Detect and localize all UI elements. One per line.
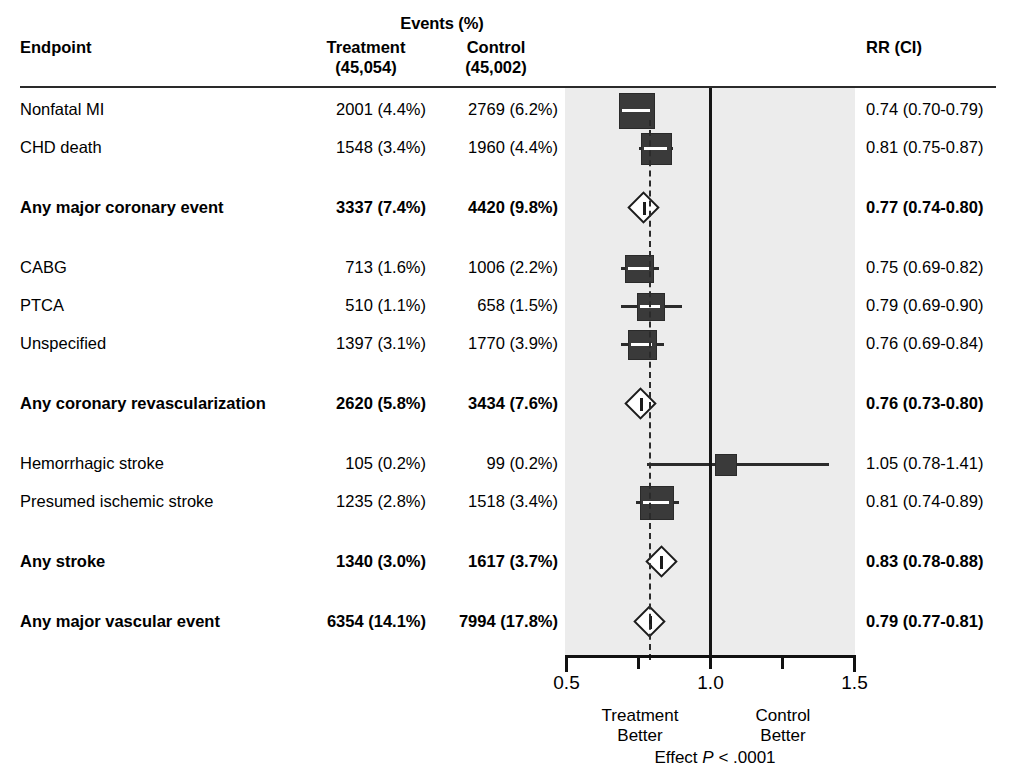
column-header-treatment-n: (45,054) bbox=[306, 58, 426, 77]
axis-caption-left: Treatment Better bbox=[575, 706, 705, 746]
row-control-events: 3434 (7.6%) bbox=[430, 394, 558, 413]
effect-p-symbol: P bbox=[702, 748, 713, 767]
row-treatment-events: 2001 (4.4%) bbox=[296, 100, 426, 119]
row-control-events: 4420 (9.8%) bbox=[430, 198, 558, 217]
column-header-treatment: Treatment bbox=[306, 38, 426, 57]
axis-caption-right: Control Better bbox=[722, 706, 844, 746]
row-control-events: 1770 (3.9%) bbox=[430, 334, 558, 353]
row-rr-ci: 0.79 (0.77-0.81) bbox=[866, 612, 1016, 631]
row-label: CABG bbox=[20, 258, 67, 277]
effect-estimate-box-slit bbox=[643, 501, 668, 504]
row-rr-ci: 0.81 (0.75-0.87) bbox=[866, 138, 1016, 157]
row-rr-ci: 0.74 (0.70-0.79) bbox=[866, 100, 1016, 119]
effect-estimate-box-slit bbox=[628, 267, 649, 270]
row-label: Presumed ischemic stroke bbox=[20, 492, 213, 511]
row-control-events: 1518 (3.4%) bbox=[430, 492, 558, 511]
row-rr-ci: 0.75 (0.69-0.82) bbox=[866, 258, 1016, 277]
pooled-estimate-diamond-center bbox=[640, 398, 643, 411]
axis-caption-right-line2: Better bbox=[722, 726, 844, 746]
row-treatment-events: 510 (1.1%) bbox=[296, 296, 426, 315]
column-header-control-n: (45,002) bbox=[436, 58, 556, 77]
column-header-rr-ci: RR (CI) bbox=[866, 38, 1016, 57]
row-control-events: 1006 (2.2%) bbox=[430, 258, 558, 277]
row-rr-ci: 1.05 (0.78-1.41) bbox=[866, 454, 1016, 473]
row-control-events: 1960 (4.4%) bbox=[430, 138, 558, 157]
column-header-endpoint: Endpoint bbox=[20, 38, 91, 57]
axis-tick-mark bbox=[709, 658, 712, 669]
row-treatment-events: 1340 (3.0%) bbox=[296, 552, 426, 571]
row-treatment-events: 713 (1.6%) bbox=[296, 258, 426, 277]
events-header-title: Events (%) bbox=[318, 14, 566, 33]
row-rr-ci: 0.79 (0.69-0.90) bbox=[866, 296, 1016, 315]
effect-p-suffix: < .0001 bbox=[714, 748, 776, 767]
row-treatment-events: 6354 (14.1%) bbox=[296, 612, 426, 631]
confidence-interval-line bbox=[647, 463, 828, 466]
row-control-events: 2769 (6.2%) bbox=[430, 100, 558, 119]
pooled-estimate-diamond-center bbox=[660, 556, 663, 569]
row-treatment-events: 105 (0.2%) bbox=[296, 454, 426, 473]
row-label: Nonfatal MI bbox=[20, 100, 104, 119]
column-header-control: Control bbox=[436, 38, 556, 57]
row-label: Any stroke bbox=[20, 552, 105, 571]
row-label: Any coronary revascularization bbox=[20, 394, 266, 413]
axis-tick-label: 1.0 bbox=[676, 672, 746, 694]
row-rr-ci: 0.83 (0.78-0.88) bbox=[866, 552, 1016, 571]
effect-estimate-box bbox=[715, 454, 736, 475]
row-label: Hemorrhagic stroke bbox=[20, 454, 164, 473]
null-effect-line bbox=[709, 88, 712, 658]
axis-tick-label: 1.5 bbox=[820, 672, 890, 694]
axis-caption-left-line2: Better bbox=[575, 726, 705, 746]
row-rr-ci: 0.77 (0.74-0.80) bbox=[866, 198, 1016, 217]
row-label: PTCA bbox=[20, 296, 64, 315]
axis-tick-mark bbox=[637, 658, 640, 669]
effect-estimate-box-slit bbox=[622, 109, 650, 112]
axis-tick-mark bbox=[853, 655, 856, 672]
row-label: Unspecified bbox=[20, 334, 106, 353]
row-rr-ci: 0.76 (0.73-0.80) bbox=[866, 394, 1016, 413]
axis-caption-right-line1: Control bbox=[722, 706, 844, 726]
row-treatment-events: 2620 (5.8%) bbox=[296, 394, 426, 413]
row-control-events: 1617 (3.7%) bbox=[430, 552, 558, 571]
row-treatment-events: 1235 (2.8%) bbox=[296, 492, 426, 511]
row-control-events: 99 (0.2%) bbox=[430, 454, 558, 473]
row-treatment-events: 1548 (3.4%) bbox=[296, 138, 426, 157]
axis-tick-label: 0.5 bbox=[532, 672, 602, 694]
effect-p-prefix: Effect bbox=[654, 748, 702, 767]
pooled-estimate-diamond-center bbox=[643, 202, 646, 215]
axis-caption-left-line1: Treatment bbox=[575, 706, 705, 726]
axis-tick-mark bbox=[781, 658, 784, 669]
forest-plot-figure: Events (%) Endpoint Treatment (45,054) C… bbox=[0, 0, 1017, 775]
row-control-events: 7994 (17.8%) bbox=[430, 612, 558, 631]
effect-estimate-box-slit bbox=[644, 147, 667, 150]
row-treatment-events: 1397 (3.1%) bbox=[296, 334, 426, 353]
row-control-events: 658 (1.5%) bbox=[430, 296, 558, 315]
row-treatment-events: 3337 (7.4%) bbox=[296, 198, 426, 217]
effect-p-value: Effect P < .0001 bbox=[570, 748, 860, 768]
row-rr-ci: 0.76 (0.69-0.84) bbox=[866, 334, 1016, 353]
row-label: CHD death bbox=[20, 138, 102, 157]
row-label: Any major vascular event bbox=[20, 612, 220, 631]
axis-tick-mark bbox=[565, 655, 568, 672]
pooled-reference-line bbox=[649, 120, 651, 660]
row-rr-ci: 0.81 (0.74-0.89) bbox=[866, 492, 1016, 511]
header-divider-rule bbox=[20, 86, 996, 88]
row-label: Any major coronary event bbox=[20, 198, 224, 217]
